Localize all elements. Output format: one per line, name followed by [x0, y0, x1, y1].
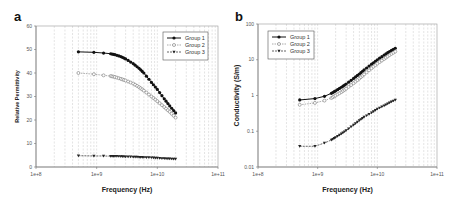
y-tick-label: 1 [251, 92, 254, 98]
marker-filled-circle-icon [323, 95, 326, 98]
legend-entry: Group 2 [290, 41, 310, 47]
series-group-3 [77, 155, 177, 161]
y-tick-label: 30 [26, 93, 32, 99]
y-axis-label: Relative Permittivity [14, 69, 20, 123]
marker-open-circle-icon [173, 44, 176, 47]
conductivity-chart: b0.010.11101001e+81e+91e+101e+11Frequenc… [228, 0, 457, 201]
legend-entry: Group 3 [290, 48, 310, 54]
x-tick-label: 1e+10 [370, 171, 384, 177]
x-tick-label: 1e+9 [312, 171, 323, 177]
marker-filled-circle-icon [156, 88, 159, 91]
y-tick-label: 100 [246, 21, 255, 27]
marker-filled-circle-icon [158, 91, 161, 94]
x-axis-label: Frequency (Hz) [322, 186, 373, 194]
marker-filled-circle-icon [394, 47, 397, 50]
marker-triangle-icon [313, 145, 316, 148]
legend-entry: Group 1 [290, 34, 310, 40]
y-tick-label: 10 [26, 140, 32, 146]
marker-triangle-icon [370, 112, 373, 115]
marker-filled-circle-icon [147, 78, 150, 81]
marker-open-circle-icon [278, 43, 281, 46]
legend: Group 1Group 2Group 3 [268, 31, 314, 59]
marker-triangle-icon [365, 114, 368, 117]
legend-entry: Group 3 [185, 49, 205, 55]
marker-filled-circle-icon [142, 71, 145, 74]
marker-open-circle-icon [323, 99, 326, 102]
x-tick-label: 1e+9 [91, 171, 102, 177]
legend-entry: Group 2 [185, 42, 205, 48]
y-tick-label: 60 [26, 23, 32, 29]
x-tick-label: 1e+8 [30, 171, 41, 177]
marker-open-circle-icon [298, 103, 301, 106]
permittivity-chart: a01020304050601e+81e+91e+101e+11Frequenc… [0, 0, 228, 201]
marker-open-circle-icon [92, 73, 95, 76]
marker-open-circle-icon [102, 74, 105, 77]
marker-open-circle-icon [77, 72, 80, 75]
marker-filled-circle-icon [145, 75, 148, 78]
x-tick-label: 1e+8 [252, 171, 263, 177]
panel-label: b [235, 9, 243, 24]
marker-filled-circle-icon [172, 36, 175, 39]
y-axis-label: Conductivity (S/m) [233, 65, 241, 127]
panel-label: a [14, 9, 22, 24]
marker-filled-circle-icon [160, 94, 163, 97]
marker-open-circle-icon [394, 50, 397, 53]
marker-filled-circle-icon [298, 98, 301, 101]
y-axis-ticks: 0.010.1110100 [244, 21, 258, 170]
series-group-3 [298, 99, 397, 148]
x-tick-label: 1e+11 [211, 171, 225, 177]
x-tick-label: 1e+11 [430, 171, 444, 177]
x-axis-label: Frequency (Hz) [102, 186, 153, 194]
panel-b-conductivity: b0.010.11101001e+81e+91e+101e+11Frequenc… [228, 0, 457, 201]
marker-filled-circle-icon [92, 51, 95, 54]
y-tick-label: 40 [26, 70, 32, 76]
y-tick-label: 10 [248, 56, 254, 62]
x-axis-ticks: 1e+81e+91e+101e+11 [252, 167, 444, 177]
y-tick-label: 0.1 [247, 128, 254, 134]
x-axis-ticks: 1e+81e+91e+101e+11 [30, 167, 225, 177]
marker-open-circle-icon [313, 101, 316, 104]
y-tick-label: 0.01 [244, 164, 254, 170]
marker-filled-circle-icon [313, 97, 316, 100]
x-tick-label: 1e+10 [150, 171, 164, 177]
marker-filled-circle-icon [102, 51, 105, 54]
marker-filled-circle-icon [174, 111, 177, 114]
y-axis-ticks: 0102030405060 [26, 23, 36, 170]
panel-a-relative-permittivity: a01020304050601e+81e+91e+101e+11Frequenc… [0, 0, 228, 201]
y-tick-label: 50 [26, 46, 32, 52]
legend-entry: Group 1 [185, 35, 205, 41]
marker-filled-circle-icon [277, 35, 280, 38]
y-tick-label: 0 [29, 164, 32, 170]
y-tick-label: 20 [26, 117, 32, 123]
legend: Group 1Group 2Group 3 [163, 32, 208, 60]
marker-open-circle-icon [174, 116, 177, 119]
marker-filled-circle-icon [77, 50, 80, 53]
